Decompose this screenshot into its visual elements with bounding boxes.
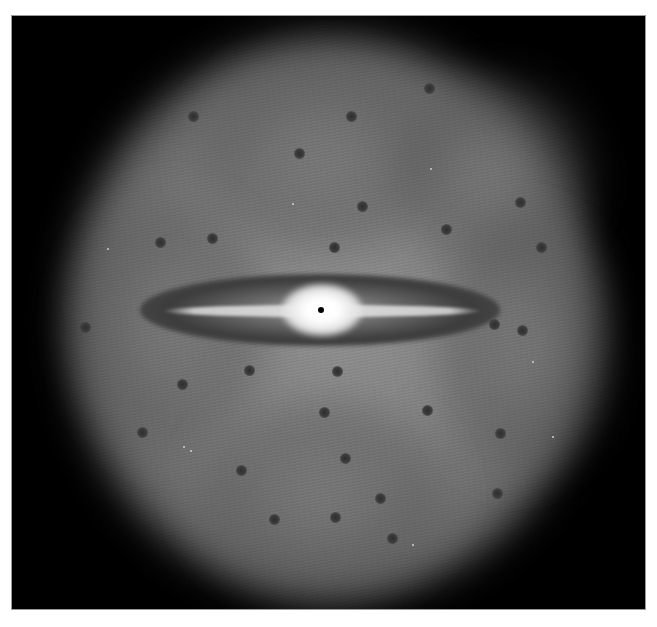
dark-spot: [340, 453, 351, 464]
dark-spot: [536, 242, 547, 253]
dark-spot: [155, 237, 166, 248]
dark-spot: [269, 514, 280, 525]
dark-spot: [422, 405, 433, 416]
dark-spot: [80, 322, 91, 333]
star: [552, 436, 554, 438]
galactic-core: [318, 307, 324, 313]
star: [412, 544, 414, 546]
dark-spot: [329, 242, 340, 253]
star: [292, 203, 294, 205]
star: [107, 248, 109, 250]
dark-spot: [492, 488, 503, 499]
dark-spot: [357, 201, 368, 212]
galaxy-image: [12, 16, 645, 609]
dark-spot: [294, 148, 305, 159]
dark-spot: [319, 407, 330, 418]
dark-spot: [236, 465, 247, 476]
dark-spot: [424, 83, 435, 94]
dark-spot: [346, 111, 357, 122]
dark-spot: [517, 325, 528, 336]
dark-spot: [387, 533, 398, 544]
star: [190, 450, 192, 452]
dark-spot: [495, 428, 506, 439]
dark-spot: [441, 224, 452, 235]
dark-spot: [244, 365, 255, 376]
dark-spot: [188, 111, 199, 122]
dark-spot: [177, 379, 188, 390]
star: [430, 168, 432, 170]
dark-spot: [375, 493, 386, 504]
dark-spot: [137, 427, 148, 438]
dark-spot: [332, 366, 343, 377]
star: [532, 361, 534, 363]
dark-spot: [330, 512, 341, 523]
dark-spot: [515, 197, 526, 208]
dark-spot: [207, 233, 218, 244]
star: [183, 446, 185, 448]
